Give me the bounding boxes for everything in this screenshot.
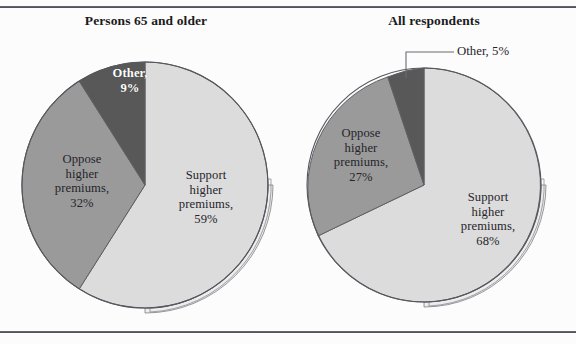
- chart-panel-persons-65-and-older: Persons 65 and older Support higher prem…: [0, 0, 292, 344]
- pie-label-oppose-right: Oppose higher premiums, 27%: [314, 126, 408, 184]
- pie-chart-left: Support higher premiums, 59% Oppose high…: [0, 0, 292, 344]
- figure-canvas: Persons 65 and older Support higher prem…: [0, 0, 576, 344]
- pie-label-other-left: Other, 9%: [95, 66, 165, 95]
- pie-label-oppose-left: Oppose higher premiums, 32%: [36, 152, 128, 210]
- pie-label-support-left: Support higher premiums, 59%: [160, 168, 252, 226]
- pie-callout-other-right: Other, 5%: [457, 44, 509, 59]
- pie-chart-right: Other, 5% Support higher premiums, 68% O…: [292, 0, 576, 344]
- pie-label-support-right: Support higher premiums, 68%: [440, 190, 536, 248]
- chart-panel-all-respondents: All respondents Ot: [292, 0, 576, 344]
